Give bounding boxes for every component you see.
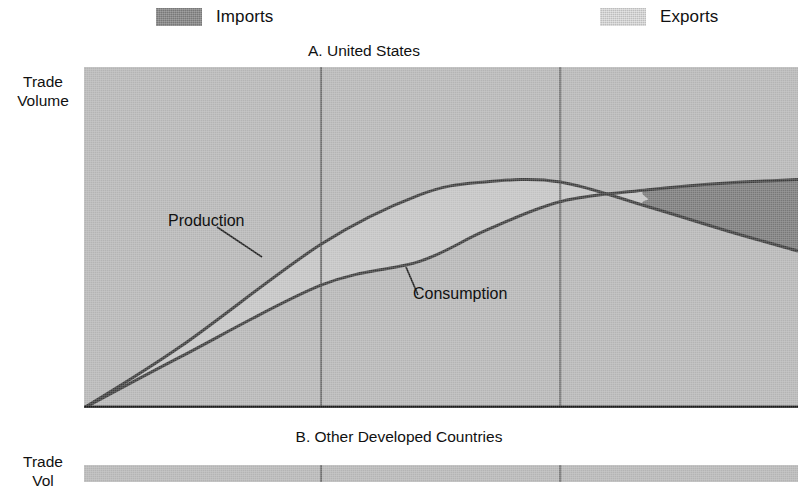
- panel-b-y-axis-label-line2: Vol: [6, 471, 80, 490]
- panel-b-svg: [84, 465, 798, 482]
- panel-b-plot-area: [84, 465, 798, 482]
- chart-legend: Imports Exports: [0, 0, 798, 34]
- legend-entry-imports: Imports: [156, 4, 273, 30]
- panel-b-y-axis-label-line1: Trade: [6, 452, 80, 471]
- panel-a-y-axis-label-line1: Trade: [6, 72, 80, 91]
- panel-a-svg: [84, 67, 798, 408]
- panel-a-plot-area: [84, 67, 798, 408]
- panel-b-background: [84, 465, 798, 482]
- panel-b-y-axis-label: Trade Vol: [6, 452, 80, 490]
- panel-a-title: A. United States: [0, 42, 763, 60]
- legend-label-imports: Imports: [216, 7, 273, 27]
- legend-entry-exports: Exports: [600, 4, 718, 30]
- consumption-label: Consumption: [413, 285, 507, 303]
- production-label: Production: [168, 212, 245, 230]
- exports-swatch-icon: [600, 8, 646, 26]
- imports-swatch-icon: [156, 8, 202, 26]
- panel-b-title: B. Other Developed Countries: [0, 428, 798, 446]
- legend-label-exports: Exports: [660, 7, 718, 27]
- panel-a-y-axis-label: Trade Volume: [6, 72, 80, 110]
- panel-a-y-axis-label-line2: Volume: [6, 91, 80, 110]
